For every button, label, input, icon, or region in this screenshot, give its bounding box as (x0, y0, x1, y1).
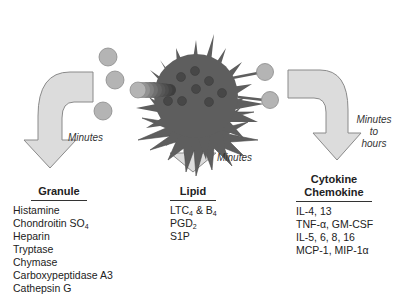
lipid-mediator-list: Lipid LTC4 & B4 PGD2 S1P (170, 185, 217, 243)
list-item: IL-5, 6, 8, 16 (296, 231, 373, 244)
lipid-timing-label: Minutes (217, 152, 252, 164)
released-granules-left (94, 48, 124, 120)
list-item: Chondroitin SO4 (13, 217, 113, 230)
granule-arrow (24, 72, 93, 168)
item-subscript: 4 (85, 223, 89, 230)
cytokine-arrow (288, 70, 361, 160)
lipid-heading: Lipid (170, 185, 216, 201)
list-item: Heparin (13, 230, 113, 243)
item-text: & B (193, 204, 213, 216)
granule-mediator-list: Granule Histamine Chondroitin SO4 Hepari… (13, 185, 113, 295)
list-item: IL-4, 13 (296, 205, 373, 218)
list-item: Chymase (13, 256, 113, 269)
item-subscript: 4 (213, 210, 217, 217)
list-item: Cathepsin G (13, 282, 113, 295)
cytokine-heading: Cytokine Chemokine (296, 173, 372, 202)
cytokine-heading-line: Chemokine (296, 186, 372, 199)
exocytosis-granule (130, 82, 176, 98)
item-text: Chondroitin SO (13, 217, 85, 229)
cytokine-mediator-list: Cytokine Chemokine IL-4, 13 TNF-α, GM-CS… (296, 173, 373, 257)
item-text: LTC (170, 204, 189, 216)
list-item: Tryptase (13, 243, 113, 256)
cytokine-timing-line: Minutes (353, 114, 395, 126)
granule-timing-label: Minutes (68, 132, 103, 144)
list-item: PGD2 (170, 217, 217, 230)
item-text: PGD (170, 217, 193, 229)
list-item: TNF-α, GM-CSF (296, 218, 373, 231)
list-item: S1P (170, 230, 217, 243)
list-item: Carboxypeptidase A3 (13, 269, 113, 282)
list-item: LTC4 & B4 (170, 204, 217, 217)
granule-heading: Granule (31, 185, 87, 201)
cytokine-timing-line: hours (353, 138, 395, 150)
cytokine-timing-line: to (353, 126, 395, 138)
cytokine-timing-label: Minutes to hours (353, 114, 395, 150)
list-item: Histamine (13, 204, 113, 217)
item-subscript: 2 (193, 223, 197, 230)
cytokine-heading-line: Cytokine (296, 173, 372, 186)
list-item: MCP-1, MIP-1α (296, 244, 373, 257)
